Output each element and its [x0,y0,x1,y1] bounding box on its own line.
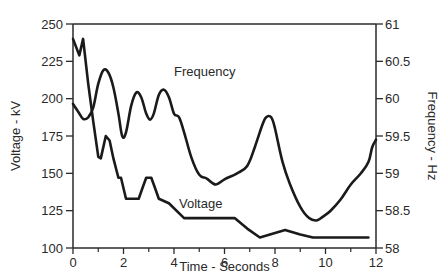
x-tick-label: 12 [369,255,383,270]
y-tick-label: 150 [41,166,63,181]
y2-tick-label: 59 [385,166,399,181]
left-y-axis-title: Voltage - kV [8,101,23,171]
y-tick-label: 125 [41,203,63,218]
dual-axis-line-chart: 024681012 100125150175200225250 5858.559… [0,0,448,275]
voltage-series-label: Voltage [179,196,222,211]
y2-tick-label: 58 [385,241,399,256]
y2-tick-label: 58.5 [385,203,410,218]
axes [73,24,376,248]
right-y-axis-title: Frequency - Hz [425,92,440,181]
series-labels: VoltageFrequency [174,64,236,210]
x-tick-label: 4 [170,255,177,270]
y2-tick-label: 61 [385,17,399,32]
y2-tick-label: 60 [385,91,399,106]
y-tick-label: 200 [41,91,63,106]
y2-tick-label: 60.5 [385,54,410,69]
y-tick-label: 100 [41,241,63,256]
x-axis-title: Time - Seconds [179,259,270,274]
x-tick-label: 0 [69,255,76,270]
y-tick-label: 175 [41,129,63,144]
frequency-series-label: Frequency [174,64,236,79]
y-tick-label: 250 [41,17,63,32]
x-tick-label: 10 [318,255,332,270]
x-tick-label: 8 [271,255,278,270]
left-y-axis-ticks: 100125150175200225250 [41,17,73,256]
y-tick-label: 225 [41,54,63,69]
frequency-line [73,69,376,220]
x-tick-label: 2 [120,255,127,270]
right-y-axis-ticks: 5858.55959.56060.561 [376,17,410,256]
y2-tick-label: 59.5 [385,129,410,144]
